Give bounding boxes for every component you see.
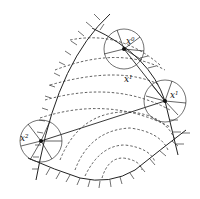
objective-contours bbox=[40, 38, 175, 178]
diagram-canvas: x0 x1 x1 x2 bbox=[0, 0, 200, 199]
neighborhood-x0 bbox=[104, 29, 144, 69]
point-x2 bbox=[39, 139, 43, 143]
label-x1: x1 bbox=[170, 90, 179, 100]
label-x-mid: x1 bbox=[124, 74, 133, 84]
constraint-boundary-right bbox=[92, 28, 178, 155]
label-x2: x2 bbox=[20, 133, 29, 143]
label-x0: x0 bbox=[126, 36, 135, 46]
optimization-diagram: x0 x1 x1 x2 bbox=[0, 0, 200, 199]
point-x0 bbox=[122, 47, 126, 51]
neighborhood-x1 bbox=[144, 80, 186, 122]
hatching-bottom bbox=[46, 133, 190, 188]
point-x1 bbox=[163, 99, 167, 103]
search-path bbox=[41, 49, 165, 141]
